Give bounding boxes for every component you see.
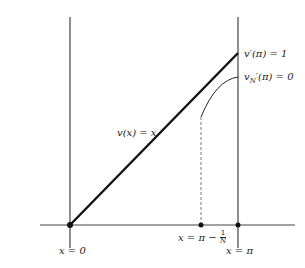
label-x-pi: x = π [226,246,253,256]
label-text: v′(π) = 1 [244,48,287,59]
vN-curve [201,77,238,117]
label-x-zero: x = 0 [59,246,86,256]
pi-minus-point [199,223,204,228]
origin-point [67,222,73,228]
label-text: ′(π) = 0 [256,71,294,82]
label-text: v(x) = x [117,127,156,138]
label-text: x = π [226,245,253,256]
label-text: x = π − [178,232,217,243]
fraction-denominator: N [220,238,226,245]
v-equals-x-line [70,53,238,225]
label-text: x = 0 [59,245,86,256]
label-vN-derivative-pi: vN′(π) = 0 [244,72,294,85]
fraction: 1 N [220,230,226,245]
pi-point [236,223,241,228]
label-v-of-x: v(x) = x [117,128,156,138]
label-v-derivative-pi: v′(π) = 1 [244,49,287,59]
label-x-pi-minus-1-over-N: x = π − 1 N [178,230,226,245]
